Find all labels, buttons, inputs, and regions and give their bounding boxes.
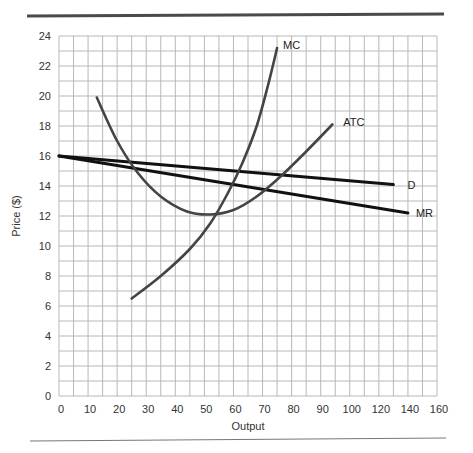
- y-tick-label: 16: [39, 150, 51, 162]
- x-tick-label: 70: [258, 403, 270, 415]
- bottom-rule: [30, 438, 446, 441]
- x-tick-label: 90: [317, 403, 329, 415]
- y-tick-label: 4: [45, 330, 51, 342]
- y-tick-label: 22: [39, 60, 51, 72]
- x-tick-label: 160: [430, 403, 448, 415]
- y-tick-label: 12: [39, 210, 51, 222]
- y-tick-label: 10: [39, 240, 51, 252]
- d-curve: [59, 156, 393, 185]
- x-tick-label: 30: [142, 403, 154, 415]
- y-tick-label: 20: [39, 90, 51, 102]
- x-axis-ticks: 0102030405060708090100120140160: [58, 403, 448, 415]
- mr-label: MR: [416, 207, 433, 219]
- y-tick-label: 8: [45, 270, 51, 282]
- d-label: D: [407, 179, 415, 191]
- y-axis-ticks: 024681012141618202224: [39, 30, 51, 402]
- y-axis-title: Price ($): [10, 195, 22, 237]
- x-tick-label: 60: [229, 403, 241, 415]
- y-tick-label: 2: [45, 360, 51, 372]
- grid: [59, 36, 437, 396]
- y-tick-label: 0: [45, 390, 51, 402]
- x-tick-label: 20: [113, 403, 125, 415]
- y-tick-label: 18: [39, 120, 51, 132]
- y-tick-label: 14: [39, 180, 51, 192]
- x-tick-label: 40: [171, 403, 183, 415]
- x-tick-label: 100: [343, 403, 361, 415]
- x-tick-label: 80: [287, 403, 299, 415]
- y-tick-label: 6: [45, 300, 51, 312]
- mc-label: MC: [283, 39, 300, 51]
- x-tick-label: 10: [84, 403, 96, 415]
- top-rule: [27, 14, 444, 16]
- x-axis-title: Output: [231, 420, 264, 432]
- x-tick-label: 120: [372, 403, 390, 415]
- x-tick-label: 0: [58, 403, 64, 415]
- y-tick-label: 24: [39, 30, 51, 42]
- atc-label: ATC: [343, 116, 364, 128]
- x-tick-label: 50: [200, 403, 212, 415]
- cost-revenue-chart: 024681012141618202224 010203040506070809…: [0, 0, 473, 453]
- x-tick-label: 140: [401, 403, 419, 415]
